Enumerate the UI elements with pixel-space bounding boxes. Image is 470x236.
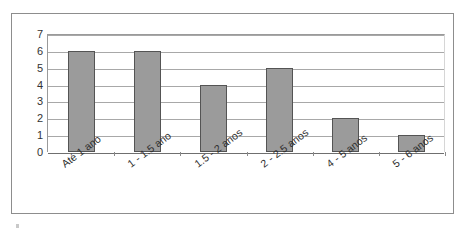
x-tick-mark — [445, 152, 446, 156]
x-axis-category-labels: Até 1 ano1 - 1.5 ano1.5 - 2 anos2 - 2.5 … — [0, 0, 470, 236]
x-category-label: 1.5 - 2 anos — [192, 126, 244, 170]
x-category-label: 4 - 5 anos — [324, 131, 369, 169]
x-tick-mark — [313, 152, 314, 156]
x-tick-mark — [180, 152, 181, 156]
figure-container: 01234567 Até 1 ano1 - 1.5 ano1.5 - 2 ano… — [0, 0, 470, 236]
scan-artifact-speck — [16, 224, 19, 228]
x-tick-mark — [247, 152, 248, 156]
x-category-label: 2 - 2.5 anos — [258, 126, 310, 170]
x-category-label: 5 - 6 anos — [390, 131, 435, 169]
x-tick-mark — [114, 152, 115, 156]
x-category-label: 1 - 1.5 ano — [125, 129, 173, 169]
x-category-label: Até 1 ano — [59, 132, 103, 169]
x-tick-mark — [379, 152, 380, 156]
